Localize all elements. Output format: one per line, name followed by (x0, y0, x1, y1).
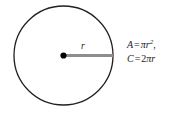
center-dot (60, 52, 66, 58)
area-equals: = (133, 39, 141, 50)
radius-label: r (81, 42, 85, 52)
area-trailing-comma: , (153, 39, 156, 50)
formula-block: A=πr2, C=2πr (127, 38, 156, 66)
area-formula: A=πr2, (127, 38, 156, 52)
circumference-radius: r (151, 53, 155, 64)
circumference-formula: C=2πr (127, 52, 156, 66)
circumference-variable: C (127, 53, 134, 64)
circle-figure: r A=πr2, C=2πr (0, 0, 170, 114)
